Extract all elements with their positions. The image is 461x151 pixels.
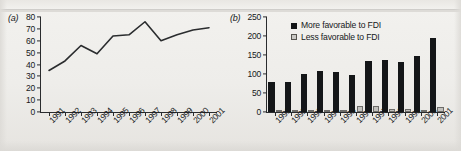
bar-more-favorable-1998 xyxy=(382,60,388,112)
bar-more-favorable-1994 xyxy=(317,71,323,112)
legend-swatch-icon xyxy=(291,23,297,29)
bar-less-favorable-1993 xyxy=(308,110,314,112)
bar-more-favorable-1997 xyxy=(365,61,371,112)
bar-less-favorable-1996 xyxy=(357,106,363,112)
line-chart-y-tick-label: 50 xyxy=(26,48,35,58)
bar-more-favorable-1995 xyxy=(333,72,339,112)
bar-chart-y-tick xyxy=(263,35,267,36)
bar-less-favorable-1992 xyxy=(292,110,298,112)
line-chart-plot-area: 0102030405060708019911992199319941995199… xyxy=(40,17,217,113)
legend-item-more-favorable: More favorable to FDI xyxy=(291,20,381,32)
bar-less-favorable-2000 xyxy=(421,110,427,112)
bar-less-favorable-1995 xyxy=(340,110,346,112)
bar-chart-y-tick-label: 0 xyxy=(256,107,261,117)
bar-chart-y-tick xyxy=(263,16,267,17)
bar-chart-y-tick-label: 100 xyxy=(247,69,261,79)
line-chart-y-tick-label: 20 xyxy=(26,83,35,93)
bar-more-favorable-2000 xyxy=(414,56,420,112)
bar-more-favorable-1991 xyxy=(268,82,274,112)
line-chart-y-tick xyxy=(37,76,41,77)
line-chart-y-tick-label: 60 xyxy=(26,36,35,46)
line-chart-y-tick xyxy=(37,52,41,53)
bar-more-favorable-1996 xyxy=(349,75,355,112)
legend-swatch-icon xyxy=(291,34,297,40)
line-chart-y-tick xyxy=(37,88,41,89)
bar-less-favorable-1991 xyxy=(276,110,282,112)
legend-item-less-favorable: Less favorable to FDI xyxy=(291,32,381,44)
line-chart-y-tick-label: 0 xyxy=(30,107,35,117)
bar-chart-y-tick xyxy=(263,73,267,74)
line-chart-y-tick-label: 40 xyxy=(26,60,35,70)
bar-chart-y-tick xyxy=(263,92,267,93)
legend-label: Less favorable to FDI xyxy=(301,32,380,44)
line-chart-y-tick-label: 30 xyxy=(26,71,35,81)
line-chart-y-tick xyxy=(37,111,41,112)
line-chart-y-tick-label: 80 xyxy=(26,12,35,22)
line-chart-y-tick xyxy=(37,100,41,101)
chart-panel-a: (a) 010203040506070801991199219931994199… xyxy=(0,0,228,151)
line-chart-y-tick-label: 10 xyxy=(26,95,35,105)
bar-chart-y-tick-label: 150 xyxy=(247,50,261,60)
line-series-path xyxy=(41,17,217,112)
bar-more-favorable-1993 xyxy=(301,74,307,112)
panel-a-label: (a) xyxy=(8,13,18,23)
line-chart-y-tick xyxy=(37,64,41,65)
line-chart-y-tick xyxy=(37,28,41,29)
bar-chart-y-tick xyxy=(263,111,267,112)
line-chart-y-tick xyxy=(37,16,41,17)
bar-chart-plot-area: More favorable to FDILess favorable to F… xyxy=(266,17,445,113)
bar-less-favorable-1999 xyxy=(405,109,411,112)
figure-page: (a) 010203040506070801991199219931994199… xyxy=(0,0,461,151)
panel-b-label: (b) xyxy=(230,13,240,23)
line-chart-y-tick xyxy=(37,40,41,41)
bar-more-favorable-2001 xyxy=(430,38,436,112)
legend-label: More favorable to FDI xyxy=(301,20,381,32)
bar-chart-y-tick-label: 50 xyxy=(252,88,261,98)
bar-less-favorable-2001 xyxy=(437,107,443,112)
bar-more-favorable-1992 xyxy=(285,82,291,112)
bar-chart-y-tick xyxy=(263,54,267,55)
bar-chart-y-tick-label: 200 xyxy=(247,31,261,41)
bar-more-favorable-1999 xyxy=(398,62,404,112)
bar-less-favorable-1998 xyxy=(389,109,395,112)
line-chart-y-tick-label: 70 xyxy=(26,24,35,34)
chart-legend: More favorable to FDILess favorable to F… xyxy=(291,20,381,43)
bar-chart-y-tick-label: 250 xyxy=(247,12,261,22)
bar-less-favorable-1997 xyxy=(373,106,379,112)
bar-less-favorable-1994 xyxy=(324,110,330,112)
chart-panel-b: (b) More favorable to FDILess favorable … xyxy=(228,0,461,151)
